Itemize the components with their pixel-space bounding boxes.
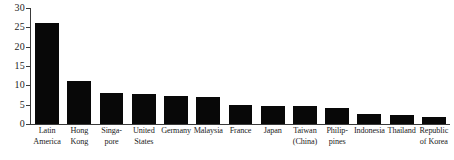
bar[interactable]: [164, 96, 188, 124]
bar-slot: [196, 8, 220, 124]
bar-slot: [261, 8, 285, 124]
y-axis-tick-mark: [26, 66, 30, 67]
bar-slot: [357, 8, 381, 124]
x-axis-category-label: Republic of Korea: [418, 126, 450, 147]
bar[interactable]: [100, 93, 124, 124]
y-axis-tick-label: 30: [15, 3, 25, 13]
x-axis-category-labels: Latin AmericaHong KongSinga- poreUnited …: [31, 126, 450, 160]
bar-slot: [422, 8, 446, 124]
bar[interactable]: [196, 97, 220, 124]
x-axis-category-label: Hong Kong: [63, 126, 95, 147]
bar-slot: [100, 8, 124, 124]
x-axis-category-label: France: [224, 126, 256, 137]
x-axis-category-label: Indonesia: [353, 126, 385, 137]
plot-area: [31, 8, 450, 124]
y-axis-tick-labels: 051015202530: [0, 0, 30, 130]
bar-slot: [164, 8, 188, 124]
bar[interactable]: [390, 115, 414, 124]
x-axis-category-label: Singa- pore: [95, 126, 127, 147]
x-axis-category-label: Malaysia: [192, 126, 224, 137]
x-axis-category-label: Thailand: [386, 126, 418, 137]
bar[interactable]: [132, 94, 156, 124]
bar-slot: [67, 8, 91, 124]
bar-slot: [293, 8, 317, 124]
y-axis-tick-label: 20: [15, 42, 25, 52]
x-axis-category-label: Philip- pines: [321, 126, 353, 147]
y-axis-tick-mark: [26, 105, 30, 106]
y-axis-tick-mark: [26, 124, 30, 125]
x-axis-line: [30, 124, 450, 125]
bar[interactable]: [229, 105, 253, 124]
bar[interactable]: [67, 81, 91, 124]
bar-slot: [325, 8, 349, 124]
y-axis-tick-mark: [26, 85, 30, 86]
x-axis-category-label: Japan: [257, 126, 289, 137]
bar[interactable]: [35, 23, 59, 124]
bar[interactable]: [261, 106, 285, 124]
x-axis-category-label: United States: [128, 126, 160, 147]
bar-slot: [229, 8, 253, 124]
x-axis-category-label: Taiwan (China): [289, 126, 321, 147]
bar-slot: [35, 8, 59, 124]
x-axis-category-label: Germany: [160, 126, 192, 137]
y-axis-tick-mark: [26, 8, 30, 9]
bar-slot: [132, 8, 156, 124]
y-axis-tick-label: 5: [20, 100, 25, 110]
bar[interactable]: [422, 117, 446, 124]
y-axis-tick-mark: [26, 27, 30, 28]
y-axis-tick-label: 10: [15, 80, 25, 90]
x-axis-category-label: Latin America: [31, 126, 63, 147]
bar[interactable]: [357, 114, 381, 124]
bar[interactable]: [293, 106, 317, 124]
bar-chart: 051015202530 Latin AmericaHong KongSinga…: [0, 0, 454, 160]
bar[interactable]: [325, 108, 349, 124]
y-axis-tick-mark: [26, 47, 30, 48]
y-axis-tick-label: 0: [20, 119, 25, 129]
y-axis-tick-label: 15: [15, 61, 25, 71]
y-axis-tick-label: 25: [15, 22, 25, 32]
bar-slot: [390, 8, 414, 124]
